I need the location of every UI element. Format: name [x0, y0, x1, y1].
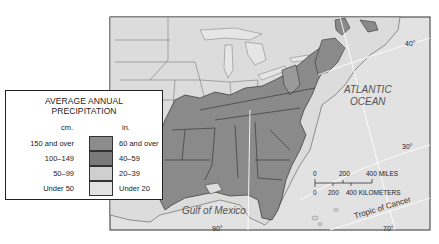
ocean-label-line2: OCEAN: [344, 96, 392, 108]
legend-title-line2: PRECIPITATION: [6, 106, 162, 116]
ocean-label: ATLANTIC OCEAN: [344, 84, 392, 108]
legend-row: 100–149 40–59: [6, 151, 162, 166]
legend-swatch-under-20: [89, 181, 113, 196]
legend-unit-cm: cm.: [61, 123, 73, 132]
legend-row: Under 50 Under 20: [6, 181, 162, 196]
lon-70-label: 70°: [383, 225, 394, 232]
legend-cm-value: 150 and over: [30, 139, 74, 148]
legend-cm-value: 100–149: [45, 154, 74, 163]
legend-swatch-20-39: [89, 166, 113, 181]
ocean-label-line1: ATLANTIC: [344, 84, 392, 96]
legend: AVERAGE ANNUAL PRECIPITATION cm. in. 150…: [5, 90, 163, 200]
legend-title: AVERAGE ANNUAL PRECIPITATION: [6, 96, 162, 116]
legend-cm-value: Under 50: [43, 184, 74, 193]
lon-90-label: 90°: [212, 225, 223, 232]
legend-in-value: Under 20: [119, 184, 150, 193]
legend-in-value: 40–59: [119, 154, 140, 163]
legend-swatch-60-over: [89, 136, 113, 151]
scale-miles-0: 0: [313, 170, 317, 177]
scale-miles-400: 400 MILES: [366, 170, 398, 177]
scale-miles-200: 200: [339, 170, 350, 177]
legend-title-line1: AVERAGE ANNUAL: [6, 96, 162, 106]
gulf-label: Gulf of Mexico: [182, 205, 246, 216]
lat-40-label: 40°: [405, 40, 416, 47]
scale-km-400: 400 KILOMETERS: [346, 189, 401, 196]
legend-cm-value: 50–99: [53, 169, 74, 178]
lat-30-label: 30°: [402, 143, 413, 150]
legend-unit-in: in.: [122, 123, 130, 132]
legend-swatch-40-59: [89, 151, 113, 166]
legend-in-value: 60 and over: [119, 139, 159, 148]
scale-km-200: 200: [328, 189, 339, 196]
legend-row: 150 and over 60 and over: [6, 136, 162, 151]
scale-km-0: 0: [313, 189, 317, 196]
legend-row: 50–99 20–39: [6, 166, 162, 181]
legend-in-value: 20–39: [119, 169, 140, 178]
